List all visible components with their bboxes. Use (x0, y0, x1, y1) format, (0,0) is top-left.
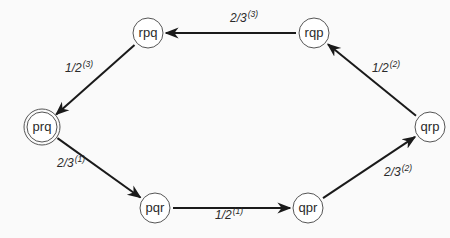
edge-label-qpr-to-qrp: 2/3(2) (383, 163, 412, 179)
edge-labels-layer: 2/3(1)1/2(1)2/3(2)1/2(2)2/3(3)1/2(3) (56, 9, 412, 222)
node-label: qrp (421, 119, 440, 134)
edge-superscript: (1) (75, 154, 86, 164)
node-prq: prq (24, 109, 60, 145)
node-label: rqp (305, 25, 324, 40)
node-qpr: qpr (293, 193, 323, 223)
edge-label-qrp-to-rqp: 1/2(2) (372, 59, 400, 75)
edge-superscript: (2) (390, 59, 401, 69)
edge-probability: 1/2 (65, 61, 82, 75)
edge-label-rpq-to-prq: 1/2(3) (65, 59, 93, 75)
node-rqp: rqp (299, 18, 329, 48)
edge-label-prq-to-pqr: 2/3(1) (56, 154, 85, 170)
node-label: rpq (139, 25, 158, 40)
node-pqr: pqr (140, 193, 170, 223)
node-label: pqr (146, 200, 165, 215)
node-label: prq (33, 119, 52, 134)
edge-label-pqr-to-qpr: 1/2(1) (215, 206, 243, 222)
nodes-layer: rpqrqpprqqrppqrqpr (24, 18, 445, 223)
edge-superscript: (1) (233, 206, 244, 216)
edge-superscript: (3) (83, 59, 94, 69)
diagram-svg: rpqrqpprqqrppqrqpr 2/3(1)1/2(1)2/3(2)1/2… (0, 0, 450, 238)
node-rpq: rpq (133, 18, 163, 48)
edge-rpq-to-prq (56, 45, 134, 114)
edge-label-rqp-to-rpq: 2/3(3) (229, 9, 258, 25)
edge-probability: 1/2 (372, 61, 389, 75)
edge-probability: 2/3 (383, 165, 401, 179)
edge-probability: 2/3 (229, 11, 247, 25)
node-qrp: qrp (415, 112, 445, 142)
node-label: qpr (299, 200, 318, 215)
edges-layer (56, 33, 416, 208)
state-diagram: rpqrqpprqqrppqrqpr 2/3(1)1/2(1)2/3(2)1/2… (0, 0, 450, 238)
edge-superscript: (3) (248, 9, 259, 19)
edge-probability: 1/2 (215, 208, 232, 222)
edge-qrp-to-rqp (328, 44, 416, 115)
edge-superscript: (2) (402, 163, 413, 173)
edge-probability: 2/3 (56, 156, 74, 170)
